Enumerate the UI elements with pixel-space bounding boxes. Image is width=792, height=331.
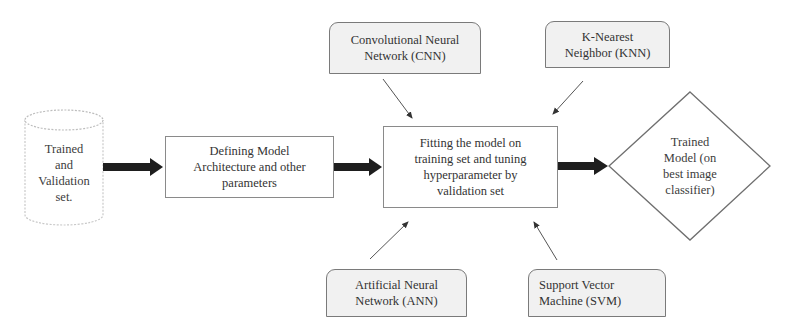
trained-model-line-4: classifier) <box>665 182 714 198</box>
cnn-line-2: Network (CNN) <box>364 48 446 64</box>
arrow-fit-to-trained <box>558 157 608 175</box>
cnn-box: Convolutional Neural Network (CNN) <box>329 22 481 74</box>
svm-line-1: Support Vector <box>539 277 614 293</box>
svm-box: Support Vector Machine (SVM) <box>528 269 666 317</box>
define-model-line-3: parameters <box>222 175 277 191</box>
dataset-label: Trained and Validation set. <box>25 133 103 213</box>
knn-line-1: K-Nearest <box>582 29 633 45</box>
ann-line-2: Network (ANN) <box>355 293 437 309</box>
arrow-dataset-to-define <box>103 158 163 176</box>
trained-model-line-1: Trained <box>671 134 709 150</box>
knn-line-2: Neighbor (KNN) <box>565 45 651 61</box>
fit-model-line-1: Fitting the model on <box>420 135 522 151</box>
define-model-line-1: Defining Model <box>209 143 289 159</box>
svm-line-2: Machine (SVM) <box>539 293 621 309</box>
trained-model-line-2: Model (on <box>664 150 716 166</box>
arrow-svm-to-fit <box>534 222 557 260</box>
fit-model-line-2: training set and tuning <box>414 151 526 167</box>
arrow-knn-to-fit <box>553 81 583 114</box>
trained-model-label: Trained Model (on best image classifier) <box>645 126 735 206</box>
trained-model-line-3: best image <box>663 166 717 182</box>
cnn-line-1: Convolutional Neural <box>351 32 460 48</box>
fit-model-box: Fitting the model on training set and tu… <box>383 126 558 208</box>
ann-line-1: Artificial Neural <box>355 277 438 293</box>
dataset-line-2: and <box>55 157 73 173</box>
arrow-cnn-to-fit <box>383 79 412 118</box>
dataset-line-1: Trained <box>45 141 83 157</box>
arrow-ann-to-fit <box>370 222 408 259</box>
define-model-box: Defining Model Architecture and other pa… <box>165 136 334 198</box>
ann-box: Artificial Neural Network (ANN) <box>326 269 467 317</box>
knn-box: K-Nearest Neighbor (KNN) <box>545 21 670 68</box>
arrow-define-to-fit <box>334 158 382 176</box>
define-model-line-2: Architecture and other <box>193 159 305 175</box>
fit-model-line-3: hyperparameter by <box>423 167 517 183</box>
dataset-line-4: set. <box>55 189 72 205</box>
dataset-line-3: Validation <box>38 173 89 189</box>
fit-model-line-4: validation set <box>437 183 504 199</box>
